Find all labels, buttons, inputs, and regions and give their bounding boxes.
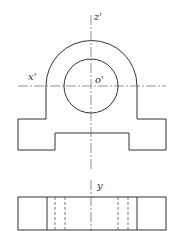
y-axis-label: y [96,180,103,191]
centerlines [18,15,166,231]
x-axis-label: x' [28,71,36,82]
top-view [18,197,166,230]
hidden-lines [55,197,128,230]
z-axis-label: z' [93,11,102,22]
origin-label: o' [95,74,104,85]
projection-drawing: z' x' o' y [0,0,178,231]
front-view [18,41,166,151]
top-view-outline [18,197,166,230]
front-view-outline [18,41,166,151]
